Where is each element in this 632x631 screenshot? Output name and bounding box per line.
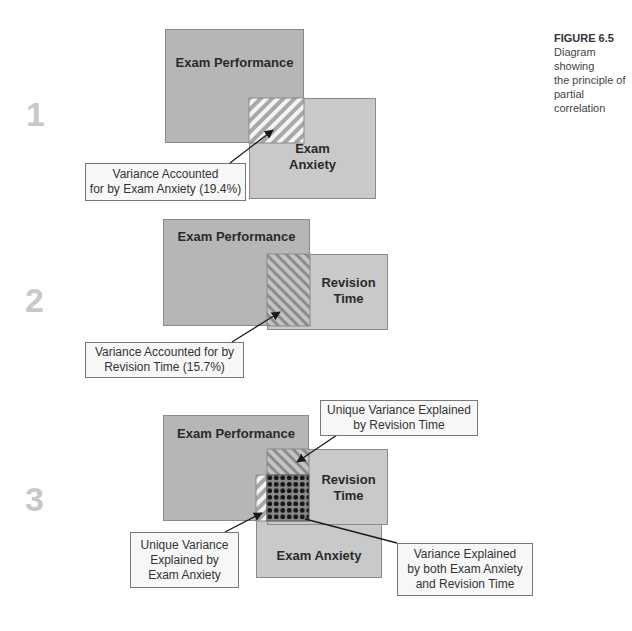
label-line: Explained by [141,553,229,568]
exam-anxiety-title-line2: Anxiety [250,157,375,173]
label-line: Variance Accounted [90,167,241,182]
variance-label-anxiety: Variance Accounted for by Exam Anxiety (… [85,163,246,201]
revision-time-title-line2: Time [310,488,387,504]
figure-caption: FIGURE 6.5 Diagram showing the principle… [554,31,632,115]
revision-time-box: Revision Time [267,449,388,525]
exam-performance-title: Exam Performance [166,55,303,71]
revision-time-box: Revision Time [267,254,388,330]
shared-variance-label: Variance Explained by both Exam Anxiety … [397,543,533,596]
label-line: Revision Time (15.7%) [95,360,234,375]
label-line: Variance Explained [407,547,522,562]
figure-caption-line: partial correlation [554,87,632,115]
variance-label-revision: Variance Accounted for by Revision Time … [85,342,244,378]
exam-anxiety-box: Exam Anxiety [249,98,376,199]
label-line: Unique Variance Explained [327,403,471,418]
figure-caption-line: the principle of [554,73,632,87]
revision-time-title-line2: Time [310,291,387,307]
label-line: by both Exam Anxiety [407,562,522,577]
step-number-2: 2 [25,283,44,317]
step-number-1: 1 [26,97,45,131]
unique-variance-anxiety-label: Unique Variance Explained by Exam Anxiet… [130,532,239,588]
label-line: Unique Variance [141,538,229,553]
label-line: and Revision Time [407,577,522,592]
figure-title: FIGURE 6.5 [554,31,632,45]
figure-caption-line: Diagram showing [554,45,632,73]
label-line: Variance Accounted for by [95,345,234,360]
label-line: for by Exam Anxiety (19.4%) [90,182,241,197]
exam-anxiety-title-line1: Exam [250,141,375,157]
revision-time-title-line1: Revision [310,275,387,291]
exam-anxiety-title: Exam Anxiety [257,548,381,564]
exam-performance-title: Exam Performance [164,426,308,442]
exam-performance-title: Exam Performance [164,229,309,245]
revision-time-title-line1: Revision [310,472,387,488]
label-line: by Revision Time [327,418,471,433]
unique-variance-revision-label: Unique Variance Explained by Revision Ti… [320,400,478,436]
step-number-3: 3 [25,482,44,516]
label-line: Exam Anxiety [141,568,229,583]
